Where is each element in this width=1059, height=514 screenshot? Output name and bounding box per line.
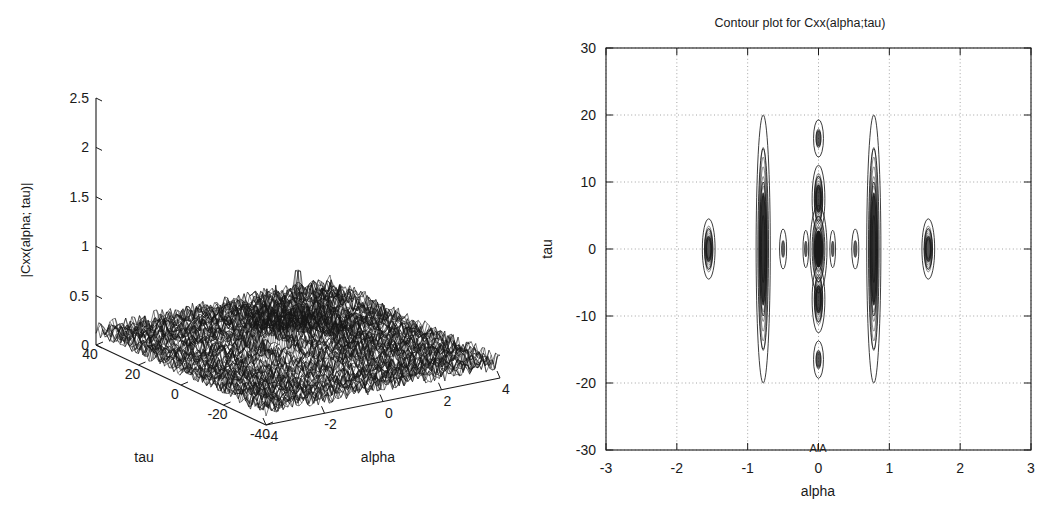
surface-zlabel: |Cxx(alpha; tau)|	[18, 183, 33, 278]
contour-peak-core	[781, 241, 784, 258]
surface-alpha-tick-label: 0	[385, 405, 393, 421]
contour-feature	[814, 120, 824, 158]
surface-z-tick	[96, 246, 102, 249]
surface-z-tick-label: 1.5	[70, 189, 90, 205]
contour-y-tick-label: 10	[580, 174, 596, 190]
surface-alpha-tick-label: -4	[266, 428, 279, 444]
contour-feature	[922, 219, 935, 279]
contour-plot-svg: Contour plot for Cxx(alpha;tau) -3-2-101…	[530, 0, 1059, 514]
surface-tau-tick-label: -20	[207, 406, 227, 422]
contour-feature	[780, 229, 787, 269]
surface-alpha-tick	[439, 383, 442, 390]
surface-tau-tick-label: 0	[171, 386, 179, 402]
contour-x-tick-label: 3	[1027, 460, 1035, 476]
surface-mesh	[96, 270, 500, 416]
contour-peak-core	[854, 241, 857, 258]
contour-peak-core	[831, 241, 834, 257]
surface-alpha-tick	[380, 395, 383, 402]
contour-xlabel: alpha	[801, 483, 835, 499]
surface-alpha-tick-label: -2	[324, 416, 337, 432]
contour-level-curves	[702, 115, 934, 383]
contour-feature	[867, 115, 881, 383]
surface-tau-tick-label: 20	[125, 366, 141, 382]
surface-alpha-tick	[497, 371, 500, 378]
surface-plot-svg: 00.511.522.540200-20-40-4-2024 |Cxx(alph…	[0, 0, 530, 514]
surface-alpha-tick	[322, 406, 325, 413]
contour-y-tick-label: 20	[580, 107, 596, 123]
surface-alpha-tick-label: 2	[444, 393, 452, 409]
surface-tau-tick	[224, 402, 231, 405]
contour-feature	[756, 115, 770, 383]
contour-x-tick-label: -2	[671, 460, 684, 476]
surface-tau-tick	[139, 362, 146, 365]
contour-peak-core	[805, 241, 808, 257]
surface-tau-tick	[181, 382, 188, 385]
surface-z-tick	[96, 98, 102, 101]
surface-z-tick	[96, 147, 102, 150]
surface-z-tick	[96, 197, 102, 200]
contour-x-tick-label: -3	[600, 460, 613, 476]
contour-feature	[702, 219, 715, 279]
contour-x-tick-label: 0	[815, 460, 823, 476]
contour-plot-panel: Contour plot for Cxx(alpha;tau) -3-2-101…	[530, 0, 1059, 514]
contour-feature	[830, 230, 836, 268]
contour-tick-labels: -3-2-101233020100-10-20-30	[576, 40, 1035, 476]
contour-ylabel: tau	[539, 239, 555, 258]
contour-x-tick-label: 2	[956, 460, 964, 476]
contour-y-tick-label: -10	[576, 308, 596, 324]
contour-y-tick-label: -20	[576, 375, 596, 391]
contour-title: Contour plot for Cxx(alpha;tau)	[715, 16, 886, 30]
surface-z-tick-label: 0.5	[70, 288, 90, 304]
surface-axes	[96, 98, 500, 425]
surface-alpha-tick-label: 4	[502, 381, 510, 397]
surface-plot-panel: 00.511.522.540200-20-40-4-2024 |Cxx(alph…	[0, 0, 530, 514]
contour-feature	[810, 205, 827, 292]
surface-ylabel: tau	[134, 449, 153, 465]
figure-canvas: 00.511.522.540200-20-40-4-2024 |Cxx(alph…	[0, 0, 1059, 514]
surface-z-tick-label: 2.5	[70, 90, 90, 106]
contour-x-tick-label: -1	[741, 460, 754, 476]
contour-artifact-text: AlA	[809, 442, 827, 454]
surface-z-tick-label: 2	[81, 139, 89, 155]
contour-peak-core	[816, 131, 821, 147]
surface-xlabel: alpha	[361, 449, 395, 465]
surface-tau-tick	[96, 342, 103, 345]
contour-peak-core	[816, 352, 821, 368]
contour-x-tick-label: 1	[885, 460, 893, 476]
contour-feature	[852, 229, 859, 269]
contour-y-tick-label: -30	[576, 442, 596, 458]
surface-z-tick-label: 1	[81, 238, 89, 254]
contour-y-tick-label: 30	[580, 40, 596, 56]
contour-y-tick-label: 0	[588, 241, 596, 257]
surface-z-tick	[96, 296, 102, 299]
surface-tau-tick-label: 40	[82, 346, 98, 362]
